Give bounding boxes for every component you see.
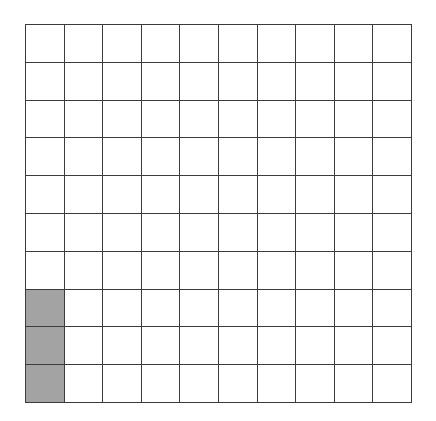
grid-cell[interactable] (180, 327, 219, 365)
grid-cell[interactable] (64, 289, 103, 327)
grid-cell[interactable] (180, 213, 219, 251)
grid-cell[interactable] (257, 176, 296, 214)
grid-cell[interactable] (103, 327, 142, 365)
grid-cell[interactable] (257, 365, 296, 403)
grid-cell[interactable] (64, 213, 103, 251)
grid-cell[interactable] (103, 251, 142, 289)
grid-cell[interactable] (64, 327, 103, 365)
grid-cell[interactable] (218, 327, 257, 365)
grid-cell[interactable] (218, 138, 257, 176)
grid-cell[interactable] (373, 25, 412, 63)
grid-cell[interactable] (180, 365, 219, 403)
grid-cell[interactable] (257, 289, 296, 327)
grid-cell[interactable] (257, 213, 296, 251)
grid-cell[interactable] (26, 251, 65, 289)
grid-cell[interactable] (26, 176, 65, 214)
grid-cell[interactable] (64, 251, 103, 289)
grid-cell[interactable] (64, 176, 103, 214)
grid-cell[interactable] (373, 289, 412, 327)
grid-cell[interactable] (334, 25, 373, 63)
grid-cell[interactable] (373, 251, 412, 289)
grid-cell[interactable] (218, 176, 257, 214)
grid-cell[interactable] (257, 327, 296, 365)
grid-cell[interactable] (141, 327, 180, 365)
grid-cell[interactable] (257, 138, 296, 176)
grid-cell[interactable] (373, 62, 412, 100)
grid-cell[interactable] (334, 213, 373, 251)
grid-cell[interactable] (373, 138, 412, 176)
grid-cell[interactable] (334, 176, 373, 214)
grid-cell[interactable] (334, 327, 373, 365)
grid-cell[interactable] (334, 251, 373, 289)
grid-cell[interactable] (141, 213, 180, 251)
grid-cell[interactable] (373, 365, 412, 403)
grid-cell[interactable] (296, 100, 335, 138)
grid-cell[interactable] (218, 289, 257, 327)
grid-cell[interactable] (180, 138, 219, 176)
grid-cell[interactable] (26, 25, 65, 63)
grid-cell[interactable] (103, 213, 142, 251)
grid-cell[interactable] (373, 327, 412, 365)
grid-cell[interactable] (141, 62, 180, 100)
grid-cell[interactable] (218, 213, 257, 251)
grid-cell[interactable] (334, 365, 373, 403)
grid-cell[interactable] (180, 251, 219, 289)
grid-cell[interactable] (180, 289, 219, 327)
grid-cell[interactable] (180, 176, 219, 214)
grid-cell[interactable] (257, 25, 296, 63)
grid-cell[interactable] (296, 251, 335, 289)
grid-cell[interactable] (296, 62, 335, 100)
grid-cell[interactable] (373, 213, 412, 251)
grid-cell[interactable] (296, 138, 335, 176)
grid-cell[interactable] (141, 251, 180, 289)
grid-cell[interactable] (296, 213, 335, 251)
grid-cell[interactable] (141, 289, 180, 327)
grid-cell[interactable] (334, 62, 373, 100)
grid-cell[interactable] (180, 25, 219, 63)
grid-cell[interactable] (257, 62, 296, 100)
grid-cell[interactable] (296, 327, 335, 365)
grid-cell[interactable] (26, 62, 65, 100)
grid-cell[interactable] (180, 100, 219, 138)
grid-cell[interactable] (103, 138, 142, 176)
grid-cell[interactable] (334, 289, 373, 327)
grid-cell[interactable] (141, 176, 180, 214)
grid-cell-shaded[interactable] (26, 365, 65, 403)
grid-cell[interactable] (296, 176, 335, 214)
grid-cell-shaded[interactable] (26, 327, 65, 365)
grid-cell[interactable] (180, 62, 219, 100)
grid-cell[interactable] (103, 62, 142, 100)
grid-cell[interactable] (64, 138, 103, 176)
grid-cell[interactable] (103, 289, 142, 327)
grid-cell[interactable] (26, 138, 65, 176)
grid-cell[interactable] (141, 138, 180, 176)
grid-cell[interactable] (26, 213, 65, 251)
grid-cell[interactable] (103, 100, 142, 138)
grid-cell[interactable] (218, 100, 257, 138)
grid-cell[interactable] (103, 176, 142, 214)
grid-cell[interactable] (141, 100, 180, 138)
grid-cell[interactable] (103, 25, 142, 63)
grid-cell[interactable] (218, 62, 257, 100)
grid-cell[interactable] (334, 100, 373, 138)
grid-cell[interactable] (373, 176, 412, 214)
grid-cell[interactable] (257, 251, 296, 289)
grid-cell[interactable] (141, 25, 180, 63)
grid-cell[interactable] (257, 100, 296, 138)
grid-cell[interactable] (64, 62, 103, 100)
grid-cell[interactable] (64, 365, 103, 403)
grid-cell[interactable] (296, 289, 335, 327)
grid-cell[interactable] (218, 365, 257, 403)
grid-cell[interactable] (334, 138, 373, 176)
grid-cell[interactable] (296, 365, 335, 403)
grid-cell[interactable] (26, 100, 65, 138)
grid-cell[interactable] (103, 365, 142, 403)
grid-cell[interactable] (296, 25, 335, 63)
grid-cell[interactable] (373, 100, 412, 138)
grid-cell[interactable] (141, 365, 180, 403)
grid-cell[interactable] (64, 100, 103, 138)
grid-cell[interactable] (218, 25, 257, 63)
grid-cell[interactable] (218, 251, 257, 289)
grid-cell[interactable] (64, 25, 103, 63)
grid-cell-shaded[interactable] (26, 289, 65, 327)
